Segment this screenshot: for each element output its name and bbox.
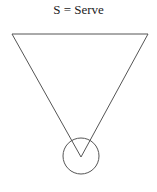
serve-symbol-diagram — [0, 0, 157, 192]
inverted-triangle — [12, 34, 148, 157]
